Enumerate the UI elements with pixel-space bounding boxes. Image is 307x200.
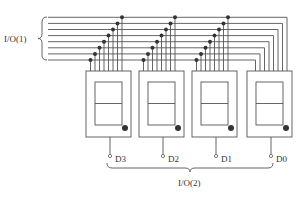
decimal-point-icon xyxy=(283,125,289,131)
terminal-icon xyxy=(108,154,111,157)
junction-dot xyxy=(98,46,102,50)
junction-dot xyxy=(142,58,146,62)
junction-dot xyxy=(107,34,111,38)
junction-dot xyxy=(195,58,199,62)
seven-segment-display-diagram: I/O(1) I/O(2) D3D2D1D0 xyxy=(0,0,307,200)
digit-select-label: D3 xyxy=(115,154,126,164)
junction-dot xyxy=(173,15,177,19)
junction-dot xyxy=(199,52,203,56)
terminal-icon xyxy=(269,154,272,157)
bus-label-io1: I/O(1) xyxy=(4,34,27,44)
display-d0 xyxy=(247,71,292,158)
display-d2 xyxy=(139,15,184,157)
display-units xyxy=(86,15,292,157)
junction-dot xyxy=(111,28,115,32)
decimal-point-icon xyxy=(122,125,128,131)
junction-dot xyxy=(155,40,159,44)
junction-dot xyxy=(169,21,173,25)
digit-select-label: D0 xyxy=(276,154,287,164)
decimal-point-icon xyxy=(175,125,181,131)
terminal-icon xyxy=(214,154,217,157)
junction-dot xyxy=(89,58,93,62)
decimal-point-icon xyxy=(228,125,234,131)
junction-dot xyxy=(146,52,150,56)
junction-dot xyxy=(116,21,120,25)
display-d3 xyxy=(86,15,131,157)
junction-dot xyxy=(213,34,217,38)
digit-select-label: D1 xyxy=(221,154,232,164)
junction-dot xyxy=(164,28,168,32)
junction-dot xyxy=(102,40,106,44)
junction-dot xyxy=(204,46,208,50)
junction-dot xyxy=(151,46,155,50)
display-d1 xyxy=(192,15,237,157)
junction-dot xyxy=(93,52,97,56)
terminal-icon xyxy=(161,154,164,157)
junction-dot xyxy=(160,34,164,38)
junction-dot xyxy=(120,15,124,19)
digit-select-label: D2 xyxy=(168,154,179,164)
bus-brace-left xyxy=(38,17,47,60)
bus-brace-bottom xyxy=(107,163,273,172)
junction-dot xyxy=(222,21,226,25)
bus-label-io2: I/O(2) xyxy=(178,178,201,188)
junction-dot xyxy=(226,15,230,19)
segment-bus-lines xyxy=(48,17,287,71)
junction-dot xyxy=(208,40,212,44)
junction-dot xyxy=(217,28,221,32)
